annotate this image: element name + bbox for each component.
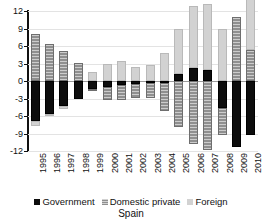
gridline — [28, 151, 258, 152]
y-tick-mark — [24, 116, 27, 117]
legend-item: Government — [34, 196, 94, 207]
x-tick-label: 1999 — [96, 153, 105, 173]
bar-segment-domestic-private — [117, 85, 126, 100]
x-tick-label: 1995 — [39, 153, 48, 173]
bar-segment-domestic-private — [189, 81, 198, 144]
bar-segment-domestic-private — [88, 89, 97, 91]
x-tick-label: 1998 — [82, 153, 91, 173]
x-tick-label: 2008 — [226, 153, 235, 173]
y-tick-label: -3 — [15, 94, 23, 103]
bar-group — [218, 11, 227, 151]
bar-segment-foreign — [174, 29, 183, 75]
bar-segment-domestic-private — [45, 44, 54, 81]
bar-segment-government — [246, 81, 255, 135]
bar-segment-foreign — [146, 65, 155, 81]
bar-group — [88, 11, 97, 151]
bar-segment-foreign — [246, 0, 255, 50]
bar-segment-foreign — [103, 64, 112, 82]
bar-group — [117, 11, 126, 151]
bar-segment-domestic-private — [232, 17, 241, 81]
bar-group — [160, 11, 169, 151]
bar-segment-domestic-private — [31, 34, 40, 81]
bar-segment-domestic-private — [74, 63, 83, 81]
bar-segment-foreign — [45, 114, 54, 116]
chart-legend: GovernmentDomestic privateForeign — [0, 196, 262, 207]
legend-item: Domestic private — [102, 196, 181, 207]
bar-series-layer — [28, 11, 258, 151]
chart-container: 129630-3-6-9-12 199519961997199819992000… — [0, 0, 262, 221]
bar-group — [31, 11, 40, 151]
bar-segment-domestic-private — [174, 81, 183, 127]
bar-segment-foreign — [31, 121, 40, 126]
y-tick-label: -6 — [15, 112, 23, 121]
legend-label: Government — [42, 196, 94, 207]
bar-group — [131, 11, 140, 151]
y-tick-mark — [24, 46, 27, 47]
y-tick-label: 9 — [18, 24, 23, 33]
x-axis-labels: 1995199619971998199920002001200220032004… — [28, 153, 258, 193]
bar-group — [189, 11, 198, 151]
bar-segment-foreign — [160, 53, 169, 81]
bar-segment-government — [31, 81, 40, 121]
y-tick-mark — [24, 11, 27, 12]
y-tick-label: 3 — [18, 59, 23, 68]
y-tick-label: 0 — [18, 77, 23, 86]
bar-group — [232, 11, 241, 151]
legend-swatch-icon — [187, 199, 193, 205]
y-tick-mark — [24, 64, 27, 65]
x-tick-label: 2010 — [254, 153, 262, 173]
bar-segment-government — [232, 81, 241, 147]
x-tick-label: 2005 — [182, 153, 191, 173]
y-tick-label: 6 — [18, 42, 23, 51]
bar-segment-foreign — [117, 61, 126, 81]
y-tick-label: 12 — [13, 7, 23, 16]
bar-group — [59, 11, 68, 151]
bar-segment-government — [189, 68, 198, 81]
bar-segment-domestic-private — [203, 81, 212, 150]
y-tick-mark — [24, 134, 27, 135]
bar-group — [146, 11, 155, 151]
x-tick-label: 2009 — [240, 153, 249, 173]
x-tick-label: 2004 — [168, 153, 177, 173]
bar-group — [246, 11, 255, 151]
legend-item: Foreign — [187, 196, 227, 207]
bar-segment-domestic-private — [103, 87, 112, 100]
x-tick-label: 2006 — [197, 153, 206, 173]
y-tick-label: -12 — [10, 147, 23, 156]
bar-group — [174, 11, 183, 151]
y-tick-mark — [24, 99, 27, 100]
y-tick-mark — [24, 151, 27, 152]
bar-segment-domestic-private — [59, 51, 68, 81]
bar-group — [74, 11, 83, 151]
bar-segment-government — [59, 81, 68, 106]
bar-segment-foreign — [203, 4, 212, 70]
y-tick-label: -9 — [15, 129, 23, 138]
bar-segment-foreign — [88, 72, 97, 81]
x-tick-label: 2002 — [139, 153, 148, 173]
bar-segment-government — [218, 81, 227, 108]
x-tick-label: 2000 — [111, 153, 120, 173]
bar-segment-government — [45, 81, 54, 114]
bar-group — [203, 11, 212, 151]
bar-segment-domestic-private — [146, 83, 155, 98]
bar-segment-government — [203, 70, 212, 81]
x-tick-label: 1996 — [53, 153, 62, 173]
plot-area: 129630-3-6-9-12 — [28, 11, 258, 151]
bar-group — [103, 11, 112, 151]
bar-segment-foreign — [59, 106, 68, 110]
legend-swatch-icon — [34, 199, 40, 205]
legend-label: Domestic private — [110, 196, 181, 207]
legend-label: Foreign — [195, 196, 227, 207]
bar-segment-government — [174, 74, 183, 81]
bar-segment-foreign — [189, 6, 198, 68]
x-tick-label: 1997 — [67, 153, 76, 173]
y-tick-mark — [24, 81, 27, 82]
bar-segment-government — [88, 81, 97, 89]
bar-segment-domestic-private — [131, 84, 140, 98]
x-tick-label: 2003 — [154, 153, 163, 173]
bar-segment-domestic-private — [246, 50, 255, 81]
bar-segment-domestic-private — [218, 108, 227, 134]
bar-segment-domestic-private — [160, 83, 169, 111]
x-tick-label: 2007 — [211, 153, 220, 173]
bar-segment-government — [74, 81, 83, 99]
